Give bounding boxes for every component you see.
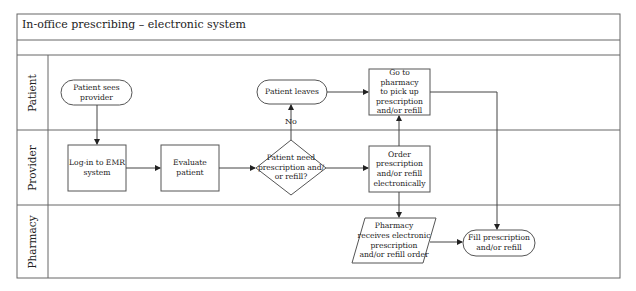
text-fill-prescription: Fill prescription and/or refill [463,230,535,256]
text-decision-need: Patient need prescription and/ or refill… [256,140,326,195]
lane-label-provider: Provider [26,138,40,198]
text-pharmacy-receives: Pharmacy receives electronic prescriptio… [352,218,436,263]
text-order-electronically: Order prescription and/or refill electro… [369,146,430,192]
text-login-emr: Log-in to EMR system [68,145,126,191]
edge-label-no: No [285,117,297,126]
lane-label-patient: Patient [26,63,40,123]
diagram-title: In-office prescribing – electronic syste… [22,18,246,31]
text-go-to-pharmacy: Go to pharmacy to pick up prescription a… [369,69,430,115]
text-patient-sees-provider: Patient sees provider [61,80,132,105]
text-evaluate-patient: Evaluate patient [161,145,219,191]
text-patient-leaves: Patient leaves [257,80,327,104]
edge-go-to-fill [430,92,497,229]
lane-label-pharmacy: Pharmacy [26,212,40,272]
